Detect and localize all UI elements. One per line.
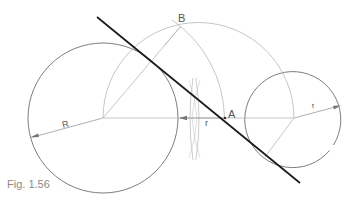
construction-line-b-down <box>164 26 181 46</box>
construction-line-right-radius <box>265 118 294 157</box>
point-a-marker <box>224 117 227 120</box>
tangent-line <box>97 17 300 183</box>
arrowhead-icon <box>30 134 39 138</box>
label-r-large: R <box>61 118 70 129</box>
figure-caption: Fig. 1.56 <box>7 178 50 190</box>
arrowhead-icon <box>179 116 187 120</box>
radius-r-small-line <box>294 106 339 118</box>
label-r-offset: r <box>205 118 208 128</box>
label-a: A <box>228 108 236 120</box>
tangent-construction-diagram: B A R r r Fig. 1.56 <box>0 0 352 202</box>
label-b: B <box>178 12 185 24</box>
label-r-small: r <box>311 101 316 110</box>
